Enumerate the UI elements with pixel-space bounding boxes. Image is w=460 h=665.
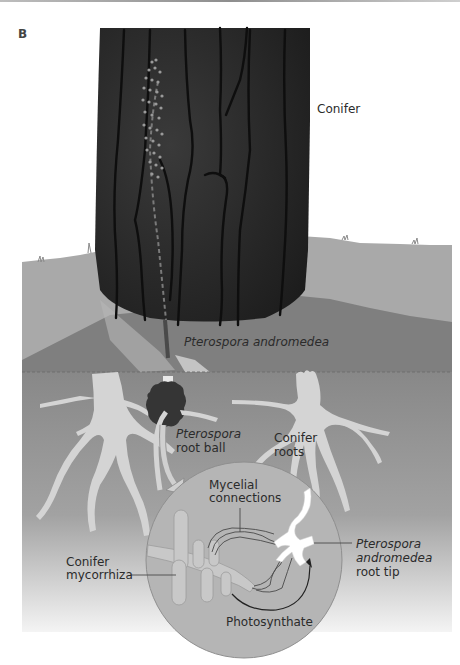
- label-root-ball-line2: root ball: [176, 441, 226, 455]
- label-root-tip-line3: root tip: [356, 565, 400, 579]
- pterospora-mycorrhiza-diagram: B: [0, 0, 460, 665]
- label-photosynthate: Photosynthate: [226, 615, 313, 629]
- label-conifer-roots-line2: roots: [274, 445, 304, 459]
- label-root-ball-line1: Pterospora: [176, 427, 241, 441]
- label-mycelial-line1: Mycelial: [209, 478, 258, 492]
- label-root-tip-line2: andromedea: [356, 551, 432, 565]
- label-conifer-roots-line1: Conifer: [274, 431, 317, 445]
- label-mycorrhiza-line1: Conifer: [66, 555, 109, 569]
- label-mycorrhiza-line2: mycorrhiza: [66, 568, 133, 582]
- label-pterospora-andromedea: Pterospora andromedea: [184, 335, 329, 349]
- conifer-trunk: [95, 28, 310, 322]
- panel-label: B: [18, 27, 27, 41]
- label-root-tip-line1: Pterospora: [356, 537, 421, 551]
- label-mycelial-line2: connections: [209, 491, 281, 505]
- label-conifer: Conifer: [317, 102, 360, 116]
